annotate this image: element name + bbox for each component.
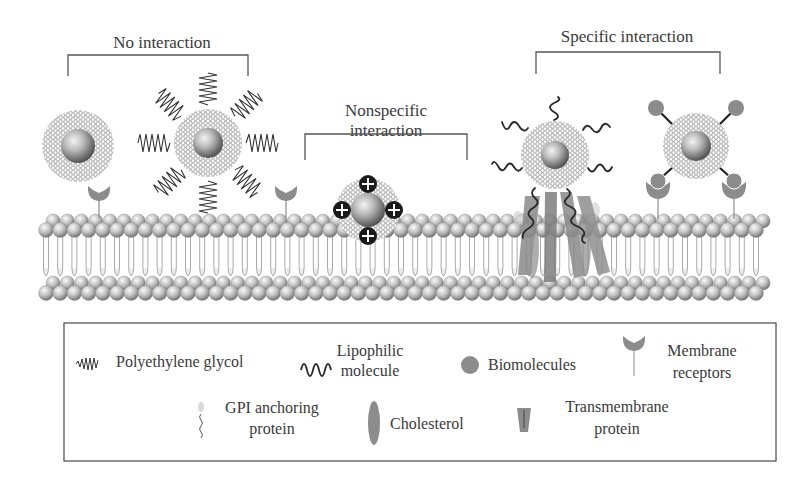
membrane-receptor — [88, 186, 110, 218]
nanoparticle-bare — [42, 110, 114, 182]
positive-charge-icon — [333, 201, 351, 219]
peg-chain — [152, 87, 187, 122]
svg-text:Specific interaction: Specific interaction — [561, 27, 694, 46]
svg-text:Transmembrane: Transmembrane — [565, 398, 668, 415]
nanoparticle-targeted — [648, 100, 744, 179]
peg-chain — [152, 164, 187, 199]
label-no-interaction: No interaction — [113, 33, 211, 52]
legend-item-cholesterol: Cholesterol — [368, 401, 464, 445]
transmembrane-protein-cluster — [513, 192, 610, 282]
nanoparticle-lipophilic — [521, 121, 589, 189]
legend-item-lipophilic: Lipophilic molecule — [301, 342, 403, 379]
peg-chain — [229, 164, 264, 199]
receptor-bound-biomolecule — [646, 173, 670, 219]
svg-text:interaction: interaction — [350, 121, 423, 140]
diagram-canvas: No interaction Nonspecific interaction S… — [0, 0, 811, 487]
positive-charge-icon — [385, 201, 403, 219]
svg-text:Cholesterol: Cholesterol — [390, 415, 464, 432]
svg-text:Membrane: Membrane — [667, 342, 736, 359]
svg-text:Polyethylene glycol: Polyethylene glycol — [116, 353, 244, 371]
peg-chain — [138, 134, 170, 152]
bracket-specific-interaction — [536, 52, 720, 74]
peg-icon — [76, 358, 98, 370]
bracket-no-interaction — [68, 55, 248, 76]
legend-item-gpi: GPI anchoring protein — [198, 399, 319, 438]
transmembrane-icon — [517, 408, 531, 432]
biomolecule — [648, 100, 664, 116]
svg-text:protein: protein — [594, 420, 639, 438]
biomolecule — [728, 100, 744, 116]
membrane-receptor — [275, 186, 297, 218]
svg-text:receptors: receptors — [673, 364, 732, 382]
lipophilic-icon — [301, 364, 331, 376]
legend-item-transmembrane: Transmembrane protein — [517, 398, 669, 438]
receptor-bound-biomolecule — [722, 173, 746, 219]
nanoparticle-pegylated — [138, 73, 278, 213]
positive-charge-icon — [359, 227, 377, 245]
legend-item-receptors: Membrane receptors — [623, 336, 737, 382]
receptor-icon — [623, 336, 645, 376]
peg-chain — [199, 73, 217, 105]
legend-item-peg: Polyethylene glycol — [76, 353, 244, 371]
svg-text:protein: protein — [249, 420, 294, 438]
biomolecule-icon — [461, 356, 479, 374]
svg-text:No interaction: No interaction — [113, 33, 211, 52]
lipid-bilayer — [39, 214, 771, 300]
peg-chain — [229, 87, 264, 122]
svg-text:GPI anchoring: GPI anchoring — [225, 399, 319, 417]
positive-charge-icon — [359, 175, 377, 193]
svg-text:molecule: molecule — [341, 362, 400, 379]
peg-chain — [246, 134, 278, 152]
svg-text:Nonspecific: Nonspecific — [345, 101, 428, 120]
svg-text:Biomolecules: Biomolecules — [488, 356, 576, 373]
gpi-icon — [198, 402, 204, 438]
peg-chain — [199, 181, 217, 213]
label-specific-interaction: Specific interaction — [561, 27, 694, 46]
cholesterol-icon — [368, 401, 380, 445]
legend-item-biomolecules: Biomolecules — [461, 356, 576, 374]
svg-text:Lipophilic: Lipophilic — [337, 342, 404, 360]
